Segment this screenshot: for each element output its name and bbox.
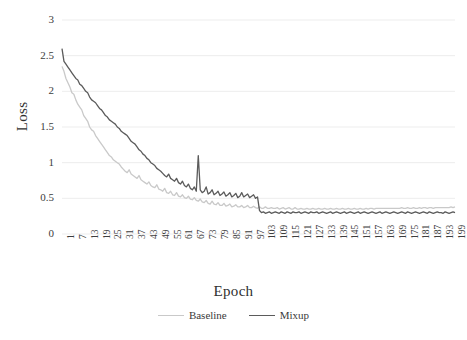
x-tick-label: 49	[161, 230, 171, 240]
x-tick-label: 19	[102, 230, 112, 240]
x-tick-label: 145	[350, 225, 360, 239]
chart-legend: BaselineMixup	[0, 309, 467, 321]
x-tick-label: 193	[445, 225, 455, 239]
x-tick-label: 199	[457, 225, 467, 239]
x-tick-label: 133	[327, 225, 337, 239]
legend-swatch	[249, 315, 275, 316]
x-tick-label: 91	[244, 230, 254, 240]
x-tick-label: 97	[256, 230, 266, 240]
x-tick-label: 187	[433, 225, 443, 239]
x-tick-label: 13	[90, 230, 100, 240]
x-axis-title: Epoch	[0, 283, 467, 300]
x-tick-label: 175	[410, 225, 420, 239]
x-tick-label: 55	[173, 230, 183, 240]
legend-entry: Mixup	[249, 309, 309, 321]
x-tick-label: 163	[386, 225, 396, 239]
loss-curve-chart: Loss 00.511.522.53 171319253137434955616…	[0, 0, 467, 340]
legend-swatch	[158, 315, 184, 316]
x-tick-label: 31	[125, 230, 135, 240]
x-tick-label: 73	[208, 230, 218, 240]
x-tick-label: 43	[149, 230, 159, 240]
legend-entry: Baseline	[158, 309, 227, 321]
x-tick-label: 85	[232, 230, 242, 240]
series-lines	[62, 49, 455, 214]
x-tick-label: 37	[137, 230, 147, 240]
x-tick-label: 79	[220, 230, 230, 240]
x-tick-label: 7	[78, 234, 88, 239]
x-tick-label: 121	[303, 225, 313, 239]
legend-label: Mixup	[280, 309, 309, 321]
x-tick-label: 67	[196, 230, 206, 240]
x-tick-label: 109	[279, 225, 289, 239]
x-tick-label: 1	[66, 234, 76, 239]
x-tick-label: 61	[184, 230, 194, 240]
x-tick-label: 25	[113, 230, 123, 240]
x-tick-label: 103	[267, 225, 277, 239]
x-tick-label: 151	[362, 225, 372, 239]
x-tick-label: 127	[315, 225, 325, 239]
x-tick-label: 169	[398, 225, 408, 239]
x-tick-label: 157	[374, 225, 384, 239]
x-tick-label: 139	[339, 225, 349, 239]
legend-label: Baseline	[189, 309, 227, 321]
x-tick-label: 181	[421, 225, 431, 239]
series-line-mixup	[62, 49, 455, 214]
series-line-baseline	[62, 66, 455, 209]
x-tick-label: 115	[291, 225, 301, 239]
